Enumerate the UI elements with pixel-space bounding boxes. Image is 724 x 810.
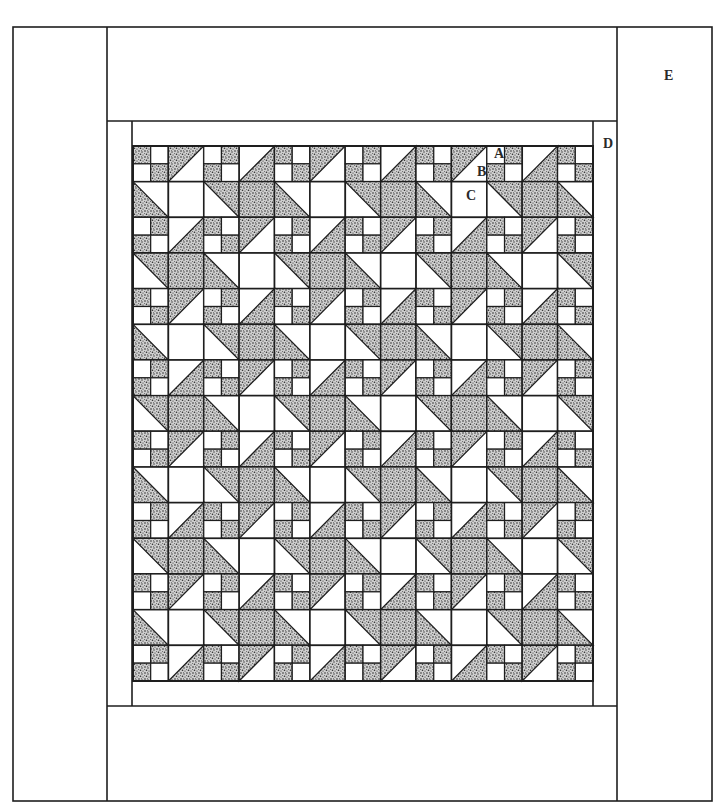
quilt-cell-f1 (416, 289, 451, 325)
quilt-cell-htl (239, 503, 274, 539)
quilt-cell-htl (310, 431, 345, 467)
quilt-cell-htl (381, 217, 416, 253)
quilt-cell-f2 (345, 574, 380, 610)
quilt-cell-f2 (487, 289, 522, 325)
quilt-cell-w (381, 538, 416, 574)
quilt-cell-hbr (522, 289, 557, 325)
quilt-cell-hbr (239, 289, 274, 325)
quilt-cell-s (168, 396, 203, 432)
quilt-cell-w (451, 610, 486, 646)
quilt-cell-dbl (558, 467, 593, 503)
quilt-cell-f1 (133, 289, 168, 325)
quilt-cell-w (310, 182, 345, 218)
quilt-cell-dtr (487, 467, 522, 503)
quilt-cell-dtr (133, 396, 168, 432)
quilt-cell-w (522, 396, 557, 432)
quilt-cell-htl (168, 431, 203, 467)
quilt-cell-htl (522, 503, 557, 539)
quilt-cell-htl (168, 289, 203, 325)
quilt-cell-w (239, 253, 274, 289)
quilt-cell-f1 (558, 574, 593, 610)
quilt-cell-f1 (416, 146, 451, 182)
quilt-cell-w (522, 253, 557, 289)
quilt-cell-htl (451, 431, 486, 467)
quilt-cell-dtr (558, 253, 593, 289)
quilt-cell-dbl (487, 396, 522, 432)
quilt-cell-s (310, 396, 345, 432)
quilt-cell-w (522, 538, 557, 574)
quilt-cell-f2 (416, 645, 451, 681)
quilt-cell-f1 (204, 503, 239, 539)
quilt-cell-dtr (275, 396, 310, 432)
quilt-cell-hbr (451, 217, 486, 253)
label-e: E (664, 68, 673, 83)
quilt-cell-hbr (310, 503, 345, 539)
quilt-cell-dtr (204, 182, 239, 218)
quilt-cell-s (522, 324, 557, 360)
quilt-cell-dbl (345, 538, 380, 574)
quilt-cell-s (451, 253, 486, 289)
quilt-cell-dtr (275, 538, 310, 574)
quilt-cell-dbl (275, 182, 310, 218)
quilt-cell-hbr (310, 645, 345, 681)
quilt-cell-f1 (133, 431, 168, 467)
quilt-cell-f2 (416, 217, 451, 253)
quilt-cell-hbr (381, 574, 416, 610)
quilt-cell-w (239, 396, 274, 432)
quilt-cell-f2 (133, 503, 168, 539)
quilt-cell-hbr (168, 503, 203, 539)
quilt-cell-htl (239, 217, 274, 253)
quilt-cell-w (381, 396, 416, 432)
quilt-cell-dbl (416, 467, 451, 503)
quilt-cell-hbr (168, 645, 203, 681)
quilt-cell-hbr (522, 574, 557, 610)
quilt-cell-dbl (204, 396, 239, 432)
quilt-diagram: A B C D E (0, 0, 724, 810)
quilt-cell-f1 (487, 360, 522, 396)
quilt-cell-dbl (558, 324, 593, 360)
quilt-cell-f2 (133, 217, 168, 253)
quilt-cell-s (381, 467, 416, 503)
quilt-cell-htl (381, 360, 416, 396)
quilt-cell-s (381, 610, 416, 646)
quilt-cell-hbr (381, 146, 416, 182)
quilt-cell-f2 (275, 217, 310, 253)
quilt-cell-s (168, 538, 203, 574)
quilt-cell-hbr (381, 431, 416, 467)
quilt-cell-dbl (558, 182, 593, 218)
quilt-cell-f2 (416, 360, 451, 396)
quilt-cell-f1 (345, 645, 380, 681)
quilt-cell-f2 (345, 431, 380, 467)
quilt-cell-f2 (345, 146, 380, 182)
quilt-cell-s (451, 396, 486, 432)
quilt-cell-htl (522, 217, 557, 253)
quilt-cell-f1 (345, 503, 380, 539)
quilt-cell-w (239, 538, 274, 574)
quilt-cell-dtr (133, 253, 168, 289)
quilt-cell-s (522, 182, 557, 218)
quilt-cell-s (310, 253, 345, 289)
quilt-cell-hbr (522, 431, 557, 467)
quilt-cell-f2 (133, 360, 168, 396)
quilt-cell-dtr (345, 610, 380, 646)
quilt-cell-f1 (345, 360, 380, 396)
quilt-cell-dtr (345, 467, 380, 503)
quilt-cell-hbr (239, 431, 274, 467)
quilt-cell-f1 (275, 574, 310, 610)
quilt-cell-f1 (275, 431, 310, 467)
quilt-cell-dtr (204, 467, 239, 503)
quilt-cell-dbl (133, 324, 168, 360)
quilt-cell-dtr (487, 610, 522, 646)
quilt-cell-f1 (345, 217, 380, 253)
quilt-cell-f2 (558, 360, 593, 396)
quilt-cell-htl (310, 574, 345, 610)
quilt-cell-htl (451, 289, 486, 325)
quilt-cell-htl (522, 360, 557, 396)
quilt-cell-f2 (133, 645, 168, 681)
quilt-cell-dbl (345, 396, 380, 432)
quilt-cell-f1 (558, 289, 593, 325)
quilt-cell-dbl (487, 538, 522, 574)
quilt-cell-f1 (133, 574, 168, 610)
quilt-cell-htl (239, 645, 274, 681)
label-a: A (494, 146, 505, 161)
